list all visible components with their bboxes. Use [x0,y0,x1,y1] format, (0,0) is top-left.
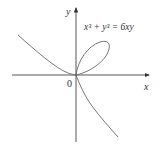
origin-label: 0 [67,78,72,89]
y-axis-label: y [65,6,71,17]
curve-lower-branch [76,75,118,137]
curve-loop [76,41,109,75]
equation-label: x³ + y³ = 6xy [83,22,134,32]
folium-diagram: y x 0 x³ + y³ = 6xy [0,0,161,147]
curve-left-branch [18,35,76,75]
x-axis-label: x [143,81,149,92]
